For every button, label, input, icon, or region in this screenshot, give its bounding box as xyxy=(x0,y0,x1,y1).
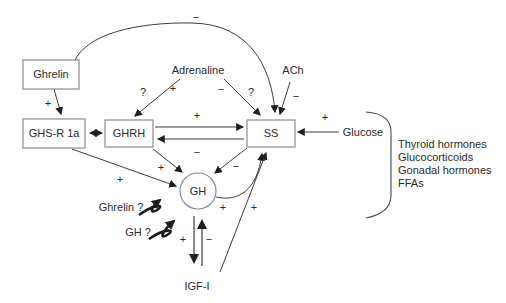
hormone-list-item-glucocorticoids: Glucocorticoids xyxy=(398,151,474,163)
adrenaline-ss-sign: − xyxy=(218,83,224,95)
hormone-regulation-diagram: Ghrelin GHS-R 1a GHRH SS GH Adrenaline A… xyxy=(0,0,506,303)
adrenaline-label: Adrenaline xyxy=(172,64,225,76)
ghrelin-question-label: Ghrelin ? xyxy=(99,201,144,213)
ghrh-gh-sign: + xyxy=(158,161,164,173)
hormone-list-item-gonadal: Gonadal hormones xyxy=(398,164,492,176)
glucose-label: Glucose xyxy=(343,126,383,138)
arrow-ss-to-gh-icon xyxy=(215,148,247,173)
arrow-gh-question-squiggle-icon xyxy=(149,221,174,239)
igf-ss-sign: + xyxy=(251,201,257,213)
glucose-ss-sign: + xyxy=(322,111,328,123)
hormone-list-item-ffas: FFAs xyxy=(398,177,424,189)
ghsr-gh-sign: + xyxy=(117,173,123,185)
igf-gh-sign: − xyxy=(206,233,212,245)
ach-ss-sign: − xyxy=(293,90,299,102)
igf1-label: IGF-I xyxy=(184,280,209,292)
hormone-list-item-thyroid: Thyroid hormones xyxy=(398,138,487,150)
long-loop-sign: − xyxy=(193,11,199,23)
ghrelin-label: Ghrelin xyxy=(33,68,68,80)
adrenaline-ss-question-sign: ? xyxy=(248,86,254,98)
ss-label: SS xyxy=(264,127,279,139)
gh-igf-sign: + xyxy=(180,233,186,245)
gh-label: GH xyxy=(190,185,207,197)
ghrh-ss-sign: + xyxy=(194,109,200,121)
adrenaline-ghrh-sign: + xyxy=(170,82,176,94)
arrow-adrenaline-to-ss-icon xyxy=(224,79,260,115)
gh-ss-sign: + xyxy=(220,201,226,213)
ghsr1a-label: GHS-R 1a xyxy=(29,127,81,139)
ghrelin-ghsr-sign: + xyxy=(45,97,51,109)
arrow-ghrelin-to-ghsr1a-icon xyxy=(54,89,61,114)
ghrh-label: GHRH xyxy=(113,127,145,139)
arrow-igf1-to-ss-icon xyxy=(220,153,266,272)
arrow-ach-to-ss-icon xyxy=(280,82,290,114)
gh-question-label: GH ? xyxy=(125,226,151,238)
ach-label: ACh xyxy=(282,64,303,76)
ss-ghrh-sign: − xyxy=(194,146,200,158)
adrenaline-ghrh-question-sign: ? xyxy=(140,86,146,98)
ss-gh-sign: − xyxy=(233,160,239,172)
